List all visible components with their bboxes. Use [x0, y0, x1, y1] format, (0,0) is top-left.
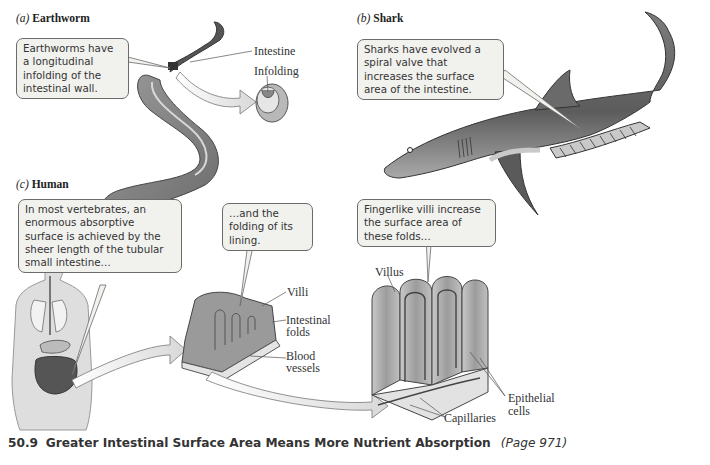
label-epithelial-cells-line1: Epithelial — [508, 392, 555, 405]
human-illustration — [12, 253, 186, 430]
caption-title: Greater Intestinal Surface Area Means Mo… — [46, 436, 491, 450]
panel-a-name: Earthworm — [32, 12, 90, 24]
villi-callout: Fingerlike villi increase the surface ar… — [357, 199, 496, 247]
panel-b-letter: (b) — [357, 12, 370, 24]
earthworm-callout: Earthworms have a longitudinal infolding… — [16, 38, 129, 99]
panel-c-heading: (c) Human — [16, 178, 69, 190]
figure-caption: 50.9 Greater Intestinal Surface Area Mea… — [8, 436, 567, 450]
label-villus: Villus — [375, 266, 404, 279]
folding-callout: …and the folding of its lining. — [222, 203, 313, 251]
caption-number: 50.9 — [8, 436, 38, 450]
villi-illustration — [372, 233, 505, 420]
panel-a-heading: (a) Earthworm — [16, 12, 90, 24]
panel-b-heading: (b) Shark — [357, 12, 403, 24]
panel-c-name: Human — [32, 178, 69, 190]
length-callout: In most vertebrates, an enormous absorpt… — [18, 199, 182, 273]
label-intestinal-folds-line2: folds — [286, 326, 310, 339]
label-epithelial-cells-line2: cells — [508, 405, 530, 418]
label-capillaries: Capillaries — [444, 412, 496, 425]
label-intestine: Intestine — [254, 45, 295, 58]
panel-a-letter: (a) — [16, 12, 29, 24]
panel-b-name: Shark — [373, 12, 403, 24]
label-blood-vessels-line2: vessels — [286, 362, 320, 375]
caption-page-reference: (Page 971) — [501, 436, 568, 450]
intestinal-folds-illustration — [182, 242, 388, 418]
label-villi: Villi — [287, 286, 308, 299]
label-infolding: Infolding — [254, 65, 299, 78]
panel-c-letter: (c) — [16, 178, 29, 190]
shark-callout: Sharks have evolved a spiral valve that … — [357, 39, 504, 100]
